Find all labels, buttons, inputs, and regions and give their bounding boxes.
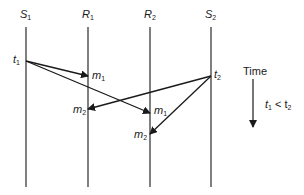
- event-label-t2: t2: [214, 69, 221, 81]
- event-label-t1: t1: [13, 54, 20, 66]
- time-label: Time: [243, 66, 267, 77]
- message-label-m2-r2: m2: [134, 129, 147, 141]
- process-label-s2: S2: [205, 9, 216, 21]
- sequence-diagram: [0, 0, 304, 195]
- process-label-r2: R2: [144, 9, 156, 21]
- process-label-r1: R1: [82, 9, 94, 21]
- message-label-m2-r1: m2: [73, 104, 86, 116]
- process-label-s1: S1: [20, 9, 31, 21]
- message-label-m1-r2: m1: [154, 105, 167, 117]
- message-label-m1-r1: m1: [92, 70, 105, 82]
- time-condition: t1 < t2: [265, 99, 291, 111]
